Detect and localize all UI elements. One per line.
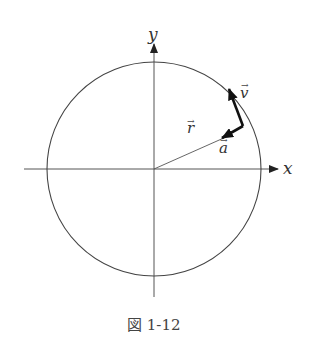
svg-text:→: →	[241, 80, 249, 90]
svg-text:→: →	[220, 135, 228, 145]
r-label: r →	[187, 116, 195, 137]
svg-text:→: →	[187, 116, 195, 126]
v-label: v →	[240, 80, 249, 102]
position-vector-r	[154, 137, 226, 169]
figure-caption: 図 1-12	[127, 316, 180, 334]
circular-motion-diagram: y x r → v → a → 図 1-12	[0, 0, 325, 344]
x-axis-label: x	[283, 158, 293, 178]
a-label: a →	[219, 135, 228, 157]
y-axis-label: y	[147, 24, 158, 44]
